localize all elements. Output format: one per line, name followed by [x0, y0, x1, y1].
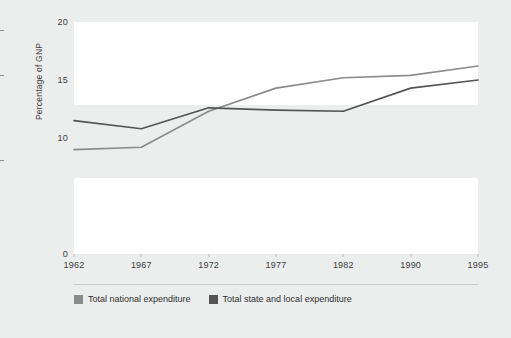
- line-total-state-and-local-expenditure: [74, 80, 478, 129]
- legend-divider: [74, 284, 478, 285]
- legend-item-total-state-and-local-expenditure[interactable]: Total state and local expenditure: [209, 294, 352, 304]
- x-axis-tick-label: 1977: [266, 260, 287, 270]
- series-lines: [74, 22, 478, 254]
- plot-area: 0101520 1962196719721977198219901995: [74, 22, 478, 254]
- y-axis-tick-label: 20: [58, 17, 68, 27]
- chart-figure: Percentage of GNP 0101520 19621967197219…: [0, 0, 511, 338]
- x-axis-tick-mark: [478, 254, 479, 257]
- x-axis-tick-label: 1990: [400, 260, 421, 270]
- x-axis-tick-mark: [343, 254, 344, 257]
- page-edge-mark: [0, 30, 4, 31]
- page-edge-mark: [0, 75, 4, 76]
- legend-swatch-icon: [74, 295, 83, 304]
- x-axis-tick-label: 1962: [64, 260, 85, 270]
- legend-swatch-icon: [209, 295, 218, 304]
- y-axis-label: Percentage of GNP: [34, 43, 44, 120]
- x-axis-tick-mark: [208, 254, 209, 257]
- legend-label: Total national expenditure: [88, 294, 191, 304]
- legend-item-total-national-expenditure[interactable]: Total national expenditure: [74, 294, 191, 304]
- x-axis-tick-label: 1982: [333, 260, 354, 270]
- x-axis-tick-label: 1967: [131, 260, 152, 270]
- x-axis-tick-label: 1995: [468, 260, 489, 270]
- x-axis-tick-mark: [276, 254, 277, 257]
- chart-legend: Total national expenditure Total state a…: [74, 294, 352, 304]
- line-total-national-expenditure: [74, 66, 478, 150]
- page-edge-mark: [0, 160, 4, 161]
- y-axis-tick-label: 0: [63, 249, 68, 259]
- legend-label: Total state and local expenditure: [223, 294, 352, 304]
- y-axis-tick-label: 10: [58, 133, 68, 143]
- x-axis-tick-mark: [410, 254, 411, 257]
- y-axis-tick-label: 15: [58, 75, 68, 85]
- x-axis-tick-mark: [74, 254, 75, 257]
- x-axis-tick-mark: [141, 254, 142, 257]
- x-axis-tick-label: 1972: [198, 260, 219, 270]
